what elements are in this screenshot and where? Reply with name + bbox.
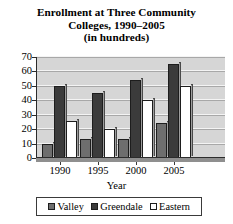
y-axis-tick-label: 10 <box>0 138 32 149</box>
bar-body <box>142 100 153 158</box>
legend-item-valley[interactable]: Valley <box>48 201 84 212</box>
legend-swatch-icon <box>48 203 55 210</box>
bar-valley-1995 <box>80 139 91 158</box>
bar-greendale-1995 <box>92 93 103 158</box>
bar-eastern-1990 <box>66 121 77 159</box>
bar-valley-2000 <box>118 139 129 158</box>
chart-title-line-3: (in hundreds) <box>0 31 233 44</box>
y-axis <box>36 57 37 158</box>
bar-body <box>168 64 179 158</box>
legend-label: Greendale <box>100 201 142 212</box>
bar-eastern-2000 <box>142 100 153 158</box>
y-axis-tick-label: 40 <box>0 95 32 106</box>
x-axis-title: Year <box>0 180 233 191</box>
bar-side-shade <box>153 98 155 156</box>
bar-greendale-1990 <box>54 86 65 158</box>
y-axis-tick <box>32 158 36 159</box>
x-axis-tick <box>60 162 61 165</box>
bar-greendale-2000 <box>130 80 141 158</box>
bar-eastern-2005 <box>180 86 191 158</box>
bar-side-shade <box>77 119 79 157</box>
legend-label: Valley <box>57 201 83 212</box>
x-axis-tick-label: 1990 <box>50 165 71 176</box>
bar-body <box>80 139 91 158</box>
bar-group <box>80 57 116 158</box>
y-axis-tick <box>32 115 36 116</box>
y-axis-tick <box>32 57 36 58</box>
y-axis-tick <box>32 100 36 101</box>
legend-swatch-icon <box>91 203 98 210</box>
legend-swatch-icon <box>150 203 157 210</box>
bar-body <box>156 123 167 158</box>
x-axis-tick-label: 2005 <box>164 165 185 176</box>
bar-body <box>54 86 65 158</box>
bar-greendale-2005 <box>168 64 179 158</box>
bar-body <box>92 93 103 158</box>
bar-body <box>66 121 77 159</box>
x-axis-tick <box>98 162 99 165</box>
y-axis-tick-label: 30 <box>0 109 32 120</box>
bar-group <box>42 57 78 158</box>
bar-body <box>42 144 53 158</box>
y-axis-tick <box>32 71 36 72</box>
bars-layer <box>36 57 225 158</box>
bar-valley-1990 <box>42 144 53 158</box>
x-axis-tick <box>136 162 137 165</box>
bar-eastern-1995 <box>104 129 115 158</box>
y-axis-tick-label: 50 <box>0 81 32 92</box>
y-axis-tick-label: 60 <box>0 66 32 77</box>
x-axis-tick-label: 1995 <box>88 165 109 176</box>
legend-label: Eastern <box>159 201 190 212</box>
chart-title-line-1: Enrollment at Three Community <box>0 6 233 19</box>
legend-item-greendale[interactable]: Greendale <box>91 201 143 212</box>
bar-body <box>104 129 115 158</box>
bar-valley-2005 <box>156 123 167 158</box>
y-axis-tick-label: 20 <box>0 124 32 135</box>
legend-item-eastern[interactable]: Eastern <box>150 201 190 212</box>
plot-area <box>36 57 225 158</box>
chart-title-line-2: Colleges, 1990–2005 <box>0 19 233 32</box>
x-axis-tick-label: 2000 <box>126 165 147 176</box>
y-axis-tick <box>32 144 36 145</box>
bar-side-shade <box>115 127 117 156</box>
axis-floor <box>36 157 225 162</box>
y-axis-tick-label: 0 <box>0 153 32 164</box>
chart-title: Enrollment at Three Community Colleges, … <box>0 6 233 44</box>
chart-figure: Enrollment at Three Community Colleges, … <box>0 0 233 224</box>
bar-body <box>130 80 141 158</box>
bar-group <box>118 57 154 158</box>
y-axis-tick-label: 70 <box>0 52 32 63</box>
bar-side-shade <box>191 84 193 156</box>
bar-body <box>180 86 191 158</box>
bar-group <box>156 57 192 158</box>
x-axis-tick <box>174 162 175 165</box>
y-axis-tick <box>32 129 36 130</box>
bar-body <box>118 139 129 158</box>
chart-legend: ValleyGreendaleEastern <box>36 197 202 216</box>
y-axis-tick <box>32 86 36 87</box>
